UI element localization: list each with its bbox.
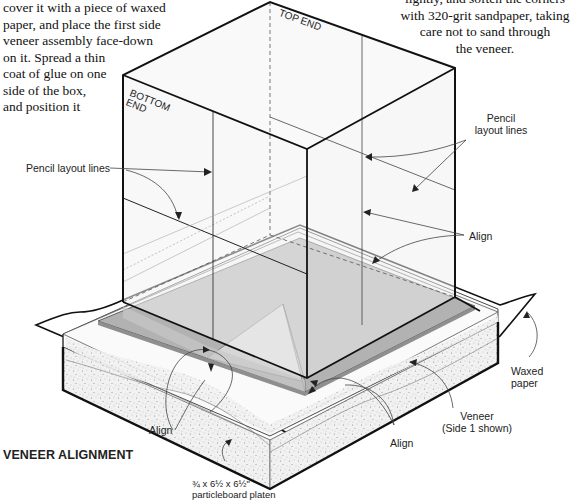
callout-platen: ¾ x 6½ x 6½" particleboard platen	[192, 478, 275, 500]
callout-pencil-layout-lines-right: Pencil layout lines	[466, 112, 536, 136]
callout-align-bottom-center: Align	[390, 437, 413, 449]
callout-pencil-layout-lines-left: Pencil layout lines	[26, 162, 110, 174]
callout-waxed-paper: Waxed paper	[511, 365, 572, 389]
figure-title: VENEER ALIGNMENT	[3, 448, 133, 462]
callout-veneer: Veneer (Side 1 shown)	[432, 410, 522, 434]
callout-align-right: Align	[469, 230, 492, 242]
callout-align-bottom-left: Align	[149, 424, 172, 436]
